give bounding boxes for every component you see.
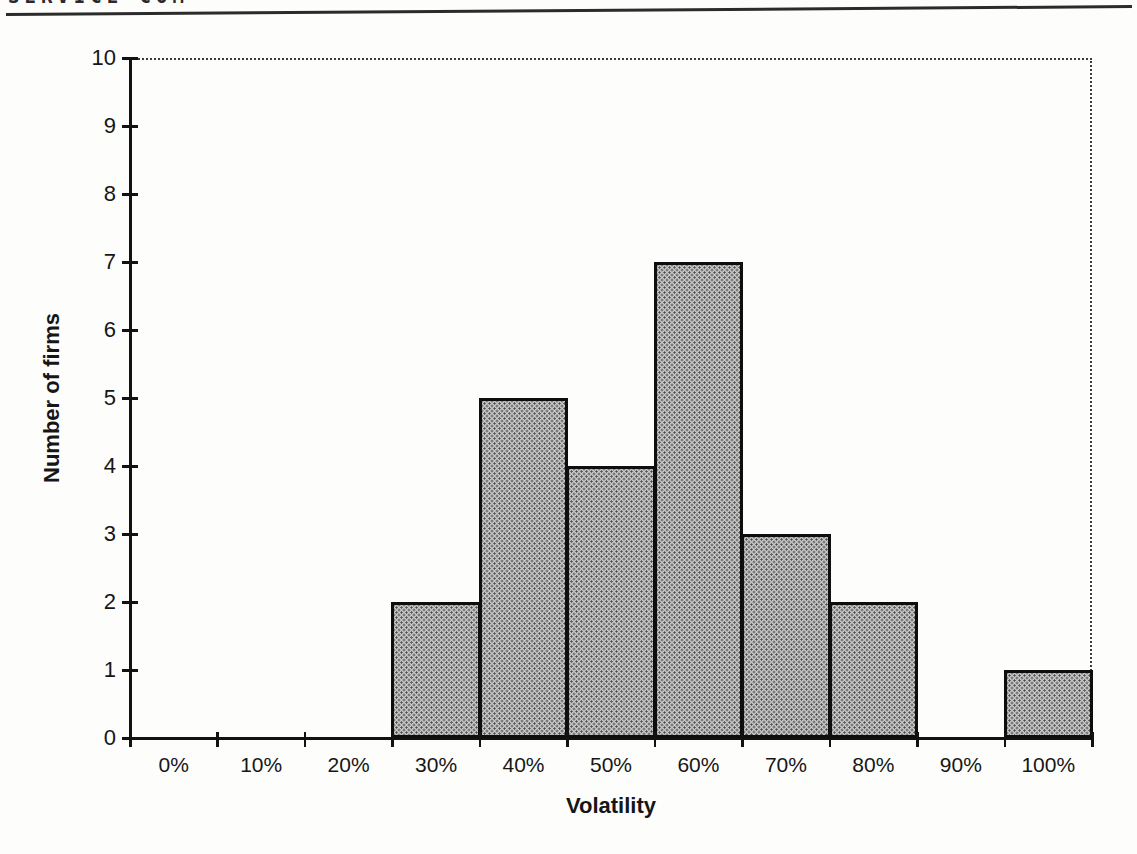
x-tick-11 [1091,732,1094,747]
y-tick-4 [122,465,138,468]
x-tick-label-30%: 30% [392,752,480,777]
x-tick-6 [654,732,657,747]
x-tick-1 [216,732,219,747]
bar-70% [741,534,830,738]
y-tick-label-9: 9 [66,113,116,139]
x-tick-label-10%: 10% [217,752,305,777]
y-tick-9 [122,125,138,128]
header-text: SERVICE COM [8,0,348,6]
y-tick-5 [122,397,138,400]
x-tick-9 [916,732,919,747]
y-tick-10 [122,57,138,60]
y-tick-label-7: 7 [66,249,116,275]
x-tick-label-40%: 40% [480,752,568,777]
y-tick-label-6: 6 [66,317,116,343]
x-tick-label-0%: 0% [130,752,218,777]
y-tick-2 [122,601,138,604]
bar-50% [566,466,655,738]
x-tick-8 [829,732,832,747]
bar-30% [391,602,480,738]
y-tick-label-10: 10 [66,45,116,71]
x-tick-3 [391,732,394,747]
bar-100% [1004,670,1093,738]
x-tick-10 [1004,732,1007,747]
x-tick-label-100%: 100% [1004,752,1092,777]
y-tick-7 [122,261,138,264]
x-tick-label-20%: 20% [305,752,393,777]
y-tick-3 [122,533,138,536]
x-tick-label-60%: 60% [654,752,742,777]
y-tick-6 [122,329,138,332]
x-tick-7 [741,732,744,747]
x-tick-label-90%: 90% [917,752,1005,777]
x-tick-4 [479,732,482,747]
x-tick-label-70%: 70% [742,752,830,777]
y-tick-label-8: 8 [66,181,116,207]
x-tick-label-50%: 50% [567,752,655,777]
y-tick-8 [122,193,138,196]
y-tick-label-3: 3 [66,521,116,547]
y-tick-label-1: 1 [66,657,116,683]
y-tick-label-0: 0 [66,725,116,751]
x-tick-2 [304,732,307,747]
y-axis-title: Number of firms [39,313,65,483]
bar-80% [829,602,918,738]
y-tick-1 [122,669,138,672]
y-tick-label-5: 5 [66,385,116,411]
header-rule [6,5,1132,15]
x-tick-5 [566,732,569,747]
y-tick-label-4: 4 [66,453,116,479]
page-header-partial: SERVICE COM [8,0,348,6]
x-axis-title: Volatility [566,793,656,819]
x-tick-label-80%: 80% [829,752,917,777]
volatility-histogram: SERVICE COM 012345678910 0%10%20%30%40%5… [0,0,1137,854]
x-tick-0 [129,732,132,747]
bar-60% [654,262,743,738]
y-tick-label-2: 2 [66,589,116,615]
bar-40% [479,398,568,738]
